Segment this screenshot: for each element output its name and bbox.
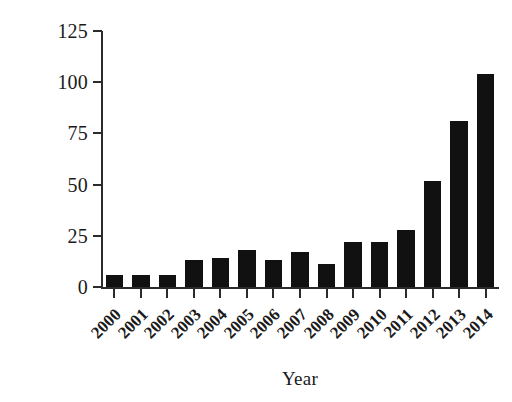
- x-axis-title: Year: [101, 368, 499, 390]
- publications-per-year-bar-chart: # Publications 0255075100125 20002001200…: [0, 0, 512, 402]
- x-axis-tick-labels: 2000200120022003200420052006200720082009…: [0, 0, 512, 402]
